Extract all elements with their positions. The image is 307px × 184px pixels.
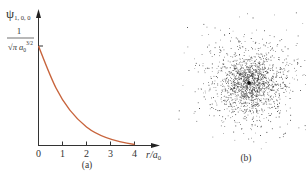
x-axis-label: r/a0 xyxy=(146,149,161,161)
y-axis-arrow-icon xyxy=(36,9,41,18)
figure: ψ1, 0, 0 1 √π a03/2 0 1 2 3 4 r/a0 (a) (… xyxy=(0,0,306,184)
y-tick-denominator: √π a03/2 xyxy=(8,40,33,53)
wavefunction-curve xyxy=(39,46,135,145)
x-tick-label: 2 xyxy=(84,148,89,159)
panel-a-plot: ψ1, 0, 0 1 √π a03/2 0 1 2 3 4 r/a0 (a) xyxy=(6,6,161,171)
x-tick-label: 0 xyxy=(36,148,41,159)
panel-a-caption: (a) xyxy=(82,160,93,171)
y-tick-numerator: 1 xyxy=(17,26,22,36)
x-tick-labels: 0 1 2 3 4 xyxy=(36,148,137,159)
panel-b-caption: (b) xyxy=(240,153,251,164)
nucleus-icon xyxy=(247,81,251,85)
panel-b-electron-cloud: (b) xyxy=(179,12,307,164)
y-axis-label: ψ1, 0, 0 xyxy=(6,6,30,21)
x-tick-label: 4 xyxy=(132,148,137,159)
probability-dots xyxy=(179,12,307,149)
x-tick-label: 3 xyxy=(108,148,113,159)
x-tick-label: 1 xyxy=(60,148,65,159)
x-axis-arrow-icon xyxy=(151,143,160,148)
